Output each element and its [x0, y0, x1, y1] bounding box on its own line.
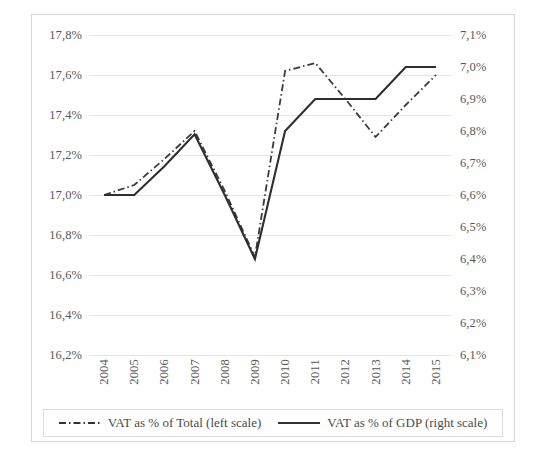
legend-item[interactable]: VAT as % of Total (left scale) [59, 415, 262, 431]
left-axis-tick-label: 16,2% [49, 348, 82, 363]
x-axis-tick-label: 2004 [97, 359, 112, 385]
x-axis-tick-label: 2010 [278, 359, 293, 385]
legend-item[interactable]: VAT as % of GDP (right scale) [278, 415, 487, 431]
right-axis-tick-label: 6,3% [460, 284, 486, 299]
right-axis-tick-label: 6,6% [460, 188, 486, 203]
left-axis-tick-label: 16,4% [49, 308, 82, 323]
left-axis-tick-label: 17,2% [49, 148, 82, 163]
x-axis-tick-label: 2014 [398, 359, 413, 385]
left-axis-tick-label: 17,4% [49, 108, 82, 123]
series-line [104, 63, 436, 257]
left-axis-tick-label: 17,8% [49, 28, 82, 43]
legend-item-label: VAT as % of GDP (right scale) [327, 415, 487, 431]
right-axis-tick-label: 6,1% [460, 348, 486, 363]
left-y-axis: 17,8%17,6%17,4%17,2%17,0%16,8%16,6%16,4%… [32, 35, 89, 355]
left-axis-tick-label: 17,0% [49, 188, 82, 203]
right-axis-tick-label: 6,4% [460, 252, 486, 267]
plot-area [89, 35, 451, 355]
x-axis-tick-label: 2009 [247, 359, 262, 385]
x-axis-tick-label: 2011 [308, 359, 323, 384]
left-axis-tick-label: 16,6% [49, 268, 82, 283]
x-axis-tick-label: 2005 [127, 359, 142, 385]
right-y-axis: 7,1%7,0%6,9%6,8%6,7%6,6%6,5%6,4%6,3%6,2%… [451, 35, 514, 355]
right-axis-tick-label: 6,5% [460, 220, 486, 235]
x-axis-tick-label: 2015 [428, 359, 443, 385]
left-axis-tick-label: 17,6% [49, 68, 82, 83]
right-axis-tick-label: 6,2% [460, 316, 486, 331]
legend-dash-dot-line-icon [59, 418, 101, 428]
left-axis-tick-label: 16,8% [49, 228, 82, 243]
x-axis-tick-label: 2006 [157, 359, 172, 385]
right-axis-tick-label: 6,8% [460, 124, 486, 139]
x-axis: 2004200520062007200820092010201120122013… [89, 355, 451, 405]
right-axis-tick-label: 6,9% [460, 92, 486, 107]
right-axis-tick-label: 7,0% [460, 60, 486, 75]
x-axis-tick-label: 2013 [368, 359, 383, 385]
legend-item-label: VAT as % of Total (left scale) [108, 415, 262, 431]
series-line [104, 67, 436, 259]
series-layer [89, 35, 451, 355]
legend-solid-line-icon [278, 418, 320, 428]
chart-container: 17,8%17,6%17,4%17,2%17,0%16,8%16,6%16,4%… [31, 14, 515, 442]
x-axis-tick-label: 2012 [338, 359, 353, 385]
chart-legend: VAT as % of Total (left scale)VAT as % o… [43, 409, 503, 437]
x-axis-tick-label: 2007 [187, 359, 202, 385]
right-axis-tick-label: 7,1% [460, 28, 486, 43]
right-axis-tick-label: 6,7% [460, 156, 486, 171]
x-axis-tick-label: 2008 [217, 359, 232, 385]
